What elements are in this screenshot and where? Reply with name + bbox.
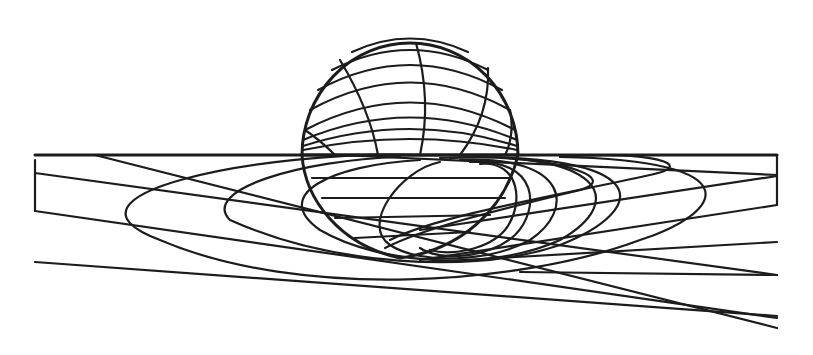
sphere-projection-diagram <box>0 0 813 355</box>
diagram-canvas <box>0 0 813 355</box>
